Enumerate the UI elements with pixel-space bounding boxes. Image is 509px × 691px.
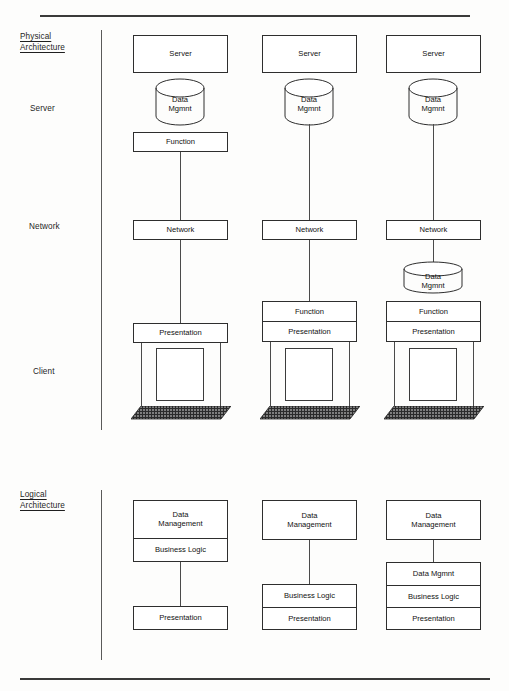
physical-c3-client-data-mgmnt-cylinder[interactable]: Data Mgmnt — [403, 261, 463, 296]
physical-c2-monitor-screen — [285, 348, 333, 401]
physical-c2-network-client-connector — [309, 240, 310, 301]
logical-c3-top-stack[interactable]: Data Management — [386, 500, 481, 540]
physical-c2-client-stack[interactable]: Function Presentation — [262, 301, 357, 342]
logical-c2-data-management-segment[interactable]: Data Management — [263, 501, 356, 539]
physical-c1-monitor-screen — [156, 348, 204, 401]
row-label-client: Client — [33, 367, 55, 378]
physical-c2-data-network-connector — [309, 124, 310, 220]
physical-c3-monitor-left-leg — [394, 342, 395, 408]
physical-section-divider — [101, 30, 102, 430]
physical-c2-function-segment[interactable]: Function — [263, 302, 356, 321]
logical-c3-data-mgmnt-segment[interactable]: Data Mgmnt — [387, 563, 480, 585]
physical-c1-presentation-segment[interactable]: Presentation — [134, 324, 227, 342]
logical-c1-connector — [180, 562, 181, 606]
physical-c2-network-box[interactable]: Network — [262, 220, 357, 240]
logical-section-divider — [101, 490, 102, 660]
logical-c3-data-management-segment[interactable]: Data Management — [387, 501, 480, 539]
physical-c1-function-box[interactable]: Function — [133, 132, 228, 152]
physical-c3-monitor-screen — [409, 348, 457, 401]
physical-c3-client-stack[interactable]: Function Presentation — [386, 301, 481, 342]
logical-c3-business-logic-segment[interactable]: Business Logic — [387, 585, 480, 606]
physical-c1-network-box[interactable]: Network — [133, 220, 228, 240]
logical-c1-data-management-segment[interactable]: Data Management — [134, 501, 227, 538]
logical-architecture-label: Logical Architecture — [20, 490, 65, 511]
logical-c1-business-logic-segment[interactable]: Business Logic — [134, 538, 227, 561]
physical-c1-monitor-right-leg — [220, 343, 221, 408]
physical-c3-data-network-connector — [433, 124, 434, 220]
logical-c2-business-logic-segment[interactable]: Business Logic — [263, 585, 356, 607]
logical-c1-presentation-segment[interactable]: Presentation — [134, 607, 227, 629]
physical-architecture-label: Physical Architecture — [20, 32, 65, 53]
physical-c2-server-box[interactable]: Server — [262, 35, 357, 73]
physical-c1-keyboard — [131, 406, 231, 420]
physical-c1-function-network-connector — [180, 152, 181, 220]
top-horizontal-rule — [40, 15, 470, 17]
physical-c1-server-box[interactable]: Server — [133, 35, 228, 73]
physical-c2-monitor-left-leg — [270, 342, 271, 408]
physical-c3-presentation-segment[interactable]: Presentation — [387, 321, 480, 341]
physical-c2-data-mgmnt-cylinder[interactable]: Data Mgmnt — [284, 78, 334, 126]
physical-c3-keyboard — [384, 406, 484, 420]
logical-c3-connector — [433, 540, 434, 562]
physical-c2-presentation-segment[interactable]: Presentation — [263, 321, 356, 341]
physical-c3-function-segment[interactable]: Function — [387, 302, 480, 321]
logical-c1-bottom-stack[interactable]: Presentation — [133, 606, 228, 630]
logical-c2-bottom-stack[interactable]: Business Logic Presentation — [262, 584, 357, 630]
bottom-horizontal-rule — [20, 678, 490, 680]
row-label-server: Server — [30, 104, 55, 115]
physical-c1-network-client-connector — [180, 240, 181, 323]
logical-c3-bottom-stack[interactable]: Data Mgmnt Business Logic Presentation — [386, 562, 481, 630]
diagram-page: Physical Architecture Server Network Cli… — [0, 0, 509, 691]
physical-c3-network-box[interactable]: Network — [386, 220, 481, 240]
logical-c2-presentation-segment[interactable]: Presentation — [263, 607, 356, 629]
physical-c1-monitor-left-leg — [141, 343, 142, 408]
physical-c3-monitor-right-leg — [473, 342, 474, 408]
physical-c2-monitor-right-leg — [349, 342, 350, 408]
logical-c2-connector — [309, 540, 310, 584]
physical-c3-server-box[interactable]: Server — [386, 35, 481, 73]
logical-c3-presentation-segment[interactable]: Presentation — [387, 607, 480, 629]
row-label-network: Network — [29, 222, 60, 233]
physical-c2-keyboard — [260, 406, 360, 420]
logical-c1-top-stack[interactable]: Data Management Business Logic — [133, 500, 228, 562]
logical-c2-top-stack[interactable]: Data Management — [262, 500, 357, 540]
physical-c1-data-mgmnt-cylinder[interactable]: Data Mgmnt — [155, 78, 205, 126]
physical-c1-client-stack[interactable]: Presentation — [133, 323, 228, 343]
physical-c3-data-mgmnt-cylinder[interactable]: Data Mgmnt — [408, 78, 458, 126]
physical-c3-network-data-connector — [433, 240, 434, 263]
